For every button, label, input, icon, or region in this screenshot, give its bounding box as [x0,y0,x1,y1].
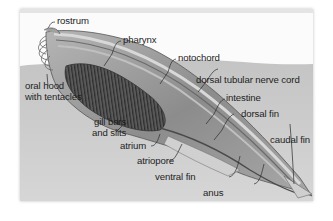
lancelet-illustration [0,0,333,221]
label-notochord: notochord [178,53,220,63]
label-dorsal-fin: dorsal fin [241,109,279,119]
label-rostrum: rostrum [57,16,89,26]
label-oral-hood-line2: with tentacles [25,92,82,102]
label-atrium: atrium [120,141,146,151]
label-atriopore: atriopore [137,156,174,166]
label-dorsal-tubular-nerve-cord: dorsal tubular nerve cord [196,75,300,85]
label-pharynx: pharynx [123,35,156,45]
label-anus: anus [203,188,223,198]
label-oral-hood-line1: oral hood [25,81,64,91]
frame-top-shade [20,9,313,13]
label-ventral-fin: ventral fin [155,172,196,182]
label-gill-bars-line2: and slits [92,128,126,138]
label-intestine: intestine [226,93,261,103]
label-gill-bars-line1: gill bars [94,117,126,127]
label-caudal-fin: caudal fin [270,135,310,145]
